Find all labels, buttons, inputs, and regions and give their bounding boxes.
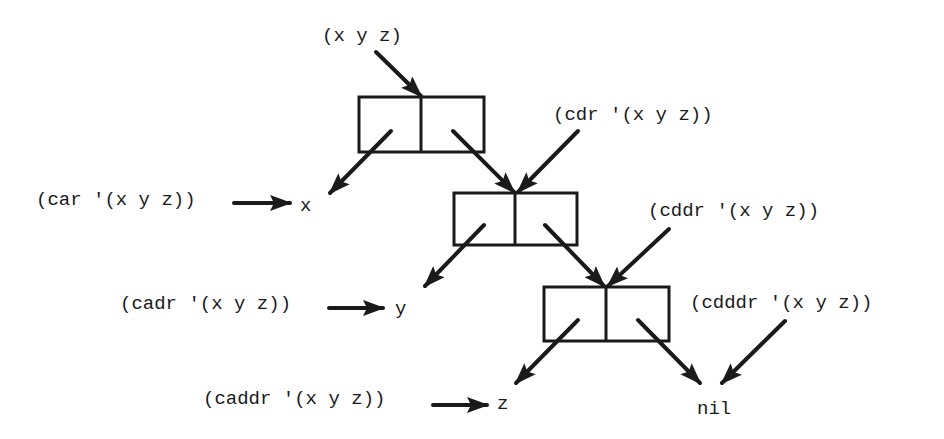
- arrow-cdr-2: [545, 225, 604, 286]
- arrow-cdr-label: [518, 131, 578, 192]
- label-x-value: x: [300, 197, 311, 216]
- label-z-value: z: [497, 395, 508, 414]
- label-car-expr: (car '(x y z)): [36, 191, 196, 210]
- label-root-list: (x y z): [322, 27, 402, 46]
- label-cdr-expr: (cdr '(x y z)): [553, 106, 713, 125]
- label-nil-value: nil: [697, 400, 731, 419]
- label-cadr-expr: (cadr '(x y z)): [120, 295, 291, 314]
- arrow-root: [376, 52, 421, 96]
- label-cdddr-expr: (cdddr '(x y z)): [690, 294, 872, 313]
- cons-cell-diagram: (x y z) (car '(x y z)) x (cdr '(x y z)) …: [0, 0, 944, 439]
- label-caddr-expr: (caddr '(x y z)): [203, 390, 385, 409]
- arrow-car-3: [516, 320, 578, 383]
- arrow-cddr-label: [608, 229, 669, 286]
- label-y-value: y: [395, 300, 406, 319]
- label-cddr-expr: (cddr '(x y z)): [648, 202, 819, 221]
- arrow-cdddr-label: [722, 321, 785, 383]
